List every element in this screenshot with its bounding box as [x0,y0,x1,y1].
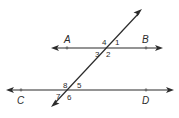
angle-label-5: 5 [77,81,82,90]
point-c [20,89,23,92]
angle-label-7: 7 [56,92,61,101]
point-d [145,89,148,92]
angle-label-4: 4 [102,38,107,47]
angle-label-1: 1 [115,38,120,47]
arrow-up-right-icon [134,9,143,17]
geometry-diagram: A B C D 4 1 3 2 8 5 7 6 [0,0,179,118]
label-a: A [63,34,71,45]
angle-label-6: 6 [67,93,72,102]
line-cd [6,87,174,93]
label-c: C [17,95,25,106]
point-b [145,47,148,50]
point-a [66,47,69,50]
angle-label-3: 3 [95,50,100,59]
angle-label-2: 2 [106,50,111,59]
angle-label-8: 8 [63,81,68,90]
label-d: D [142,95,149,106]
label-b: B [142,34,149,45]
